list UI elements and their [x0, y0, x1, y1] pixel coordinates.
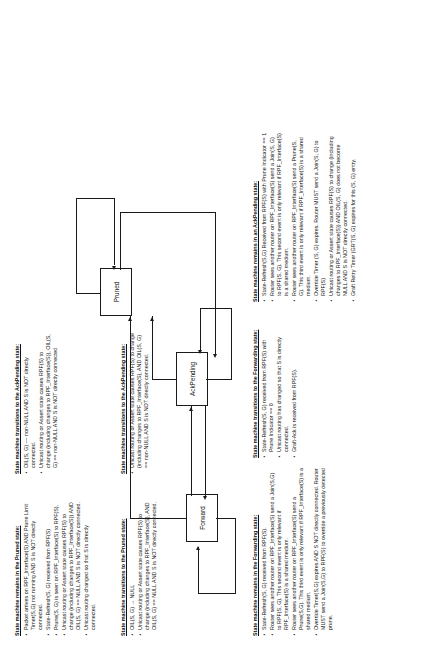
edge-pruned-ackpending-v	[120, 212, 216, 213]
list-item: Unicast routing or Assert state causes R…	[38, 334, 59, 474]
list-item: State-Refresh(S, G) received from RPF(S)…	[261, 328, 275, 458]
block-items: OIL(S, G) –– non-NULL AND S is NOT direc…	[23, 334, 59, 474]
list-item: Router sees another router on RPF_Interf…	[269, 132, 290, 302]
edge-forward-selfloop-v	[216, 518, 236, 519]
text-block-pruned-to-ackpending: State machine transitions to the AckPend…	[14, 334, 60, 474]
diagram-canvas: State machine remains in the Pruned stat…	[0, 0, 432, 654]
block-heading: State machine remains in the Pruned stat…	[14, 498, 21, 636]
list-item: State-Refresh(S, G) received from RPF(S)…	[261, 468, 268, 636]
edge-ackpending-selfloop-right	[200, 308, 232, 309]
block-heading: State machine transitions to the Pruned …	[120, 496, 127, 636]
diagram-page: State machine remains in the Pruned stat…	[0, 0, 432, 654]
edge-forward-selfloop-in	[198, 547, 199, 594]
block-items: State-Refresh(S,G) Received from RPF(S) …	[261, 132, 357, 302]
edge-pruned-ackpending-arrowhead	[213, 354, 217, 358]
block-heading: State machine remains in an AckPending s…	[252, 132, 259, 302]
edge-ackpending-pruned-v	[152, 379, 176, 380]
list-item: Packet arrives on RPF_Interface(S) AND P…	[23, 498, 44, 636]
block-items: Packet arrives on RPF_Interface(S) AND P…	[23, 498, 97, 636]
state-box-ackpending[interactable]: AckPending	[176, 352, 208, 406]
list-item: Unicast routing or Assert state causes R…	[61, 498, 82, 636]
edge-ackpending-to-forward-arrowhead	[203, 496, 207, 500]
state-label: Pruned	[113, 282, 120, 303]
edge-ackpending-pruned-arrowhead	[150, 317, 154, 321]
edge-forward-to-ackpending	[191, 406, 192, 496]
list-item: Unicast routing or Assert state causes R…	[328, 132, 349, 302]
list-item: State-Refresh(S,G) Received from RPF(S) …	[261, 132, 268, 302]
block-items: State-Refresh(S, G) received from RPF(S)…	[261, 328, 298, 458]
edge-forward-pruned-h	[130, 316, 131, 519]
text-block-forward-to-ackpending: State machine transitions to the AckPend…	[120, 332, 151, 474]
text-block-pruned-remains: State machine remains in the Pruned stat…	[14, 498, 98, 636]
edge-ackpending-selfloop-v	[206, 379, 232, 380]
list-item: Unicast routing or Assert state causes R…	[129, 332, 150, 474]
list-item: State-Refresh(S, G) received from RPF(S)	[45, 498, 52, 636]
list-item: Router sees another router on RPF_Interf…	[269, 468, 290, 636]
edge-pruned-ackpending-h	[120, 212, 121, 270]
block-items: Unicast routing or Assert state causes R…	[129, 332, 150, 474]
text-block-ackpending-remains: State machine remains in an AckPending s…	[252, 132, 358, 302]
edge-forward-pruned-v	[130, 518, 186, 519]
list-item: Router sees another router on RPF_Interf…	[291, 132, 312, 302]
list-item: OIL(S, G) –– non-NULL AND S is NOT direc…	[23, 334, 37, 474]
edge-pruned-selfloop-top	[76, 198, 77, 294]
block-heading: State machine transitions to the Forward…	[252, 328, 259, 458]
state-box-forward[interactable]: Forward	[186, 494, 218, 542]
list-item: Unicast routing has changed so that S is…	[276, 328, 290, 458]
edge-forward-selfloop-h	[235, 518, 236, 594]
state-label: AckPending	[189, 362, 196, 396]
block-heading: State machine transitions to the AckPend…	[120, 332, 127, 474]
edge-ackpending-selfloop-arrowhead	[198, 350, 202, 354]
block-items: State-Refresh(S, G) received from RPF(S)…	[261, 468, 334, 636]
list-item: Graft-Ack is received from RPF(S).	[291, 328, 298, 458]
edge-ackpending-to-forward	[205, 406, 206, 496]
edge-ackpending-selfloop-h	[231, 308, 232, 380]
list-item: Prune(S, G) is seen on RPF_Interface(S) …	[53, 498, 60, 636]
edge-pruned-selfloop-right	[76, 198, 115, 199]
edge-ackpending-pruned-h	[152, 316, 153, 380]
edge-forward-selfloop-left	[198, 593, 236, 594]
edge-pruned-selfloop-arrowhead	[112, 266, 116, 270]
state-label: Forward	[199, 506, 206, 529]
block-heading: State machine transitions to the AckPend…	[14, 334, 21, 474]
edge-ackpending-selfloop-in	[200, 308, 201, 350]
text-block-ackpending-to-forwarding: State machine transitions to the Forward…	[252, 328, 299, 458]
edge-pruned-selfloop-in	[114, 198, 115, 265]
list-item: Override Timer (S, G) expires. Router MU…	[313, 132, 327, 302]
text-block-forward-remains: State machine remains in the Forwarding …	[252, 468, 335, 636]
list-item: Unicast routing changed so that S is dir…	[83, 498, 97, 636]
list-item: Router sees another router on RPF_Interf…	[291, 468, 312, 636]
edge-forward-to-ackpending-arrowhead	[189, 407, 193, 411]
state-box-pruned[interactable]: Pruned	[100, 268, 132, 316]
edge-forward-pruned-arrowhead	[128, 317, 132, 321]
edge-pruned-ackpending-h2	[215, 212, 216, 354]
edge-pruned-selfloop-stem	[76, 293, 100, 294]
edge-forward-selfloop-arrowhead	[196, 546, 200, 550]
block-heading: State machine remains in the Forwarding …	[252, 468, 259, 636]
list-item: Override Timer(S,G) expires AND S NOT di…	[313, 468, 334, 636]
list-item: Graft Retry Timer (GRT(S, G) expires for…	[350, 132, 357, 302]
